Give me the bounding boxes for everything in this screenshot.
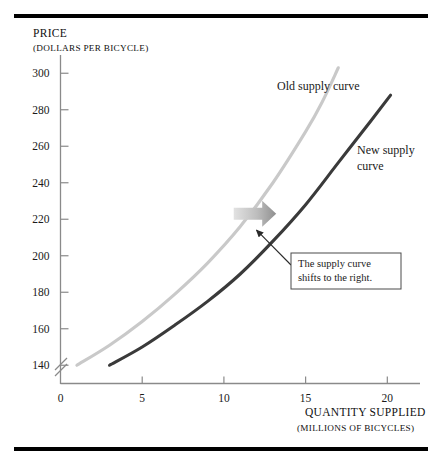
old-supply-curve <box>77 68 338 365</box>
x-tick-label: 15 <box>300 392 312 404</box>
supply-curve-plot: 140160180200220240260280300 05101520 The… <box>0 0 441 462</box>
y-tick-group: 140160180200220240260280300 <box>32 67 68 371</box>
y-tick-label: 260 <box>32 140 50 152</box>
x-tick-label: 5 <box>139 392 145 404</box>
y-tick-label: 220 <box>32 213 50 225</box>
y-tick-label: 180 <box>32 286 50 298</box>
figure-container: PRICE (DOLLARS PER BICYCLE) QUANTITY SUP… <box>0 0 441 462</box>
callout-line-2: shifts to the right. <box>298 272 372 283</box>
shift-arrow-icon <box>234 201 276 227</box>
new-supply-curve-label-line-1: New supply <box>357 143 415 157</box>
y-tick-label: 240 <box>32 177 50 189</box>
y-tick-label: 200 <box>32 250 50 262</box>
y-tick-label: 160 <box>32 323 50 335</box>
y-tick-label: 140 <box>32 359 50 371</box>
x-tick-label: 20 <box>382 392 394 404</box>
y-tick-label: 300 <box>32 67 50 79</box>
x-tick-label: 0 <box>58 392 64 404</box>
x-tick-label: 10 <box>218 392 230 404</box>
callout-leader-line <box>257 230 291 265</box>
new-supply-curve <box>110 95 391 365</box>
new-supply-curve-label-line-2: curve <box>357 159 384 173</box>
old-supply-curve-label: Old supply curve <box>277 79 360 93</box>
callout-line-1: The supply curve <box>298 258 371 269</box>
y-tick-label: 280 <box>32 104 50 116</box>
x-tick-group: 05101520 <box>58 377 394 404</box>
